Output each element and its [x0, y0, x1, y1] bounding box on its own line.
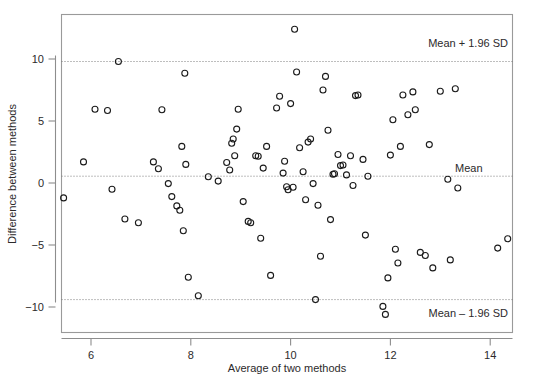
- data-point: [452, 86, 458, 92]
- data-point: [155, 166, 161, 172]
- data-point: [344, 172, 350, 178]
- data-point: [395, 260, 401, 266]
- data-point: [405, 112, 411, 118]
- data-point: [268, 272, 274, 278]
- data-point: [280, 170, 286, 176]
- data-point: [495, 245, 501, 251]
- data-point: [260, 165, 266, 171]
- upper-limit-annotation: Mean + 1.96 SD: [428, 37, 508, 49]
- data-point: [195, 293, 201, 299]
- data-point: [122, 216, 128, 222]
- data-point: [447, 257, 453, 263]
- data-point: [274, 105, 280, 111]
- data-point: [437, 88, 443, 94]
- data-point: [183, 161, 189, 167]
- data-point: [360, 156, 366, 162]
- data-point: [180, 228, 186, 234]
- data-point: [215, 178, 221, 184]
- x-tick-label: 10: [284, 349, 296, 361]
- data-point: [179, 143, 185, 149]
- y-tick-label: 5: [38, 115, 44, 127]
- data-point: [315, 202, 321, 208]
- data-point: [297, 145, 303, 151]
- data-point: [165, 181, 171, 187]
- data-point: [350, 183, 356, 189]
- data-point: [294, 69, 300, 75]
- data-point: [382, 311, 388, 317]
- data-point: [205, 174, 211, 180]
- data-point: [300, 169, 306, 175]
- data-point: [227, 167, 233, 173]
- data-point: [169, 194, 175, 200]
- data-point: [290, 184, 296, 190]
- data-point: [234, 126, 240, 132]
- plot-frame: [62, 15, 513, 333]
- data-point: [385, 275, 391, 281]
- data-point: [277, 93, 283, 99]
- y-axis-ticks-group: 1050−5−10: [25, 53, 55, 313]
- data-point: [323, 73, 329, 79]
- lower-limit-annotation: Mean – 1.96 SD: [429, 307, 509, 319]
- data-point: [81, 159, 87, 165]
- data-point: [235, 106, 241, 112]
- data-point: [318, 253, 324, 259]
- data-point: [325, 127, 331, 133]
- data-point: [412, 107, 418, 113]
- data-point: [328, 217, 334, 223]
- data-point: [310, 181, 316, 187]
- data-point: [380, 303, 386, 309]
- data-point: [422, 253, 428, 259]
- data-point: [224, 160, 230, 166]
- data-point: [150, 159, 156, 165]
- data-point: [182, 70, 188, 76]
- data-point: [105, 108, 111, 114]
- data-point: [400, 92, 406, 98]
- y-axis-title: Difference between methods: [6, 104, 18, 244]
- data-point: [397, 143, 403, 149]
- data-point: [177, 207, 183, 213]
- x-tick-label: 14: [484, 349, 496, 361]
- x-tick-label: 12: [384, 349, 396, 361]
- y-tick-label: 10: [32, 53, 44, 65]
- data-point: [505, 236, 511, 242]
- data-point: [320, 87, 326, 93]
- data-point: [288, 101, 294, 107]
- data-point: [335, 152, 341, 158]
- y-tick-label: 0: [38, 177, 44, 189]
- bland-altman-plot-figure: 68101214 1050−5−10 Average of two method…: [0, 0, 535, 388]
- data-point: [348, 153, 354, 159]
- data-point: [390, 117, 396, 123]
- data-point: [282, 158, 288, 164]
- data-point: [392, 246, 398, 252]
- mean-annotation: Mean: [455, 162, 483, 174]
- data-point: [445, 176, 451, 182]
- data-point: [362, 232, 368, 238]
- data-points-group: [61, 26, 511, 317]
- y-tick-label: −5: [31, 239, 44, 251]
- data-point: [292, 26, 298, 32]
- x-tick-label: 6: [88, 349, 94, 361]
- x-axis-ticks-group: 68101214: [88, 339, 496, 362]
- y-tick-label: −10: [25, 301, 44, 313]
- data-point: [135, 220, 141, 226]
- x-axis-title: Average of two methods: [228, 362, 347, 374]
- data-point: [455, 185, 461, 191]
- data-point: [303, 197, 309, 203]
- data-point: [313, 297, 319, 303]
- data-point: [264, 143, 270, 149]
- data-point: [92, 106, 98, 112]
- data-point: [109, 186, 115, 192]
- data-point: [240, 199, 246, 205]
- data-point: [159, 107, 165, 113]
- scatter-plot-canvas: 68101214 1050−5−10 Average of two method…: [0, 0, 535, 388]
- x-tick-label: 8: [188, 349, 194, 361]
- data-point: [232, 153, 238, 159]
- data-point: [258, 235, 264, 241]
- data-point: [430, 265, 436, 271]
- data-point: [426, 142, 432, 148]
- data-point: [387, 152, 393, 158]
- data-point: [410, 89, 416, 95]
- data-point: [185, 274, 191, 280]
